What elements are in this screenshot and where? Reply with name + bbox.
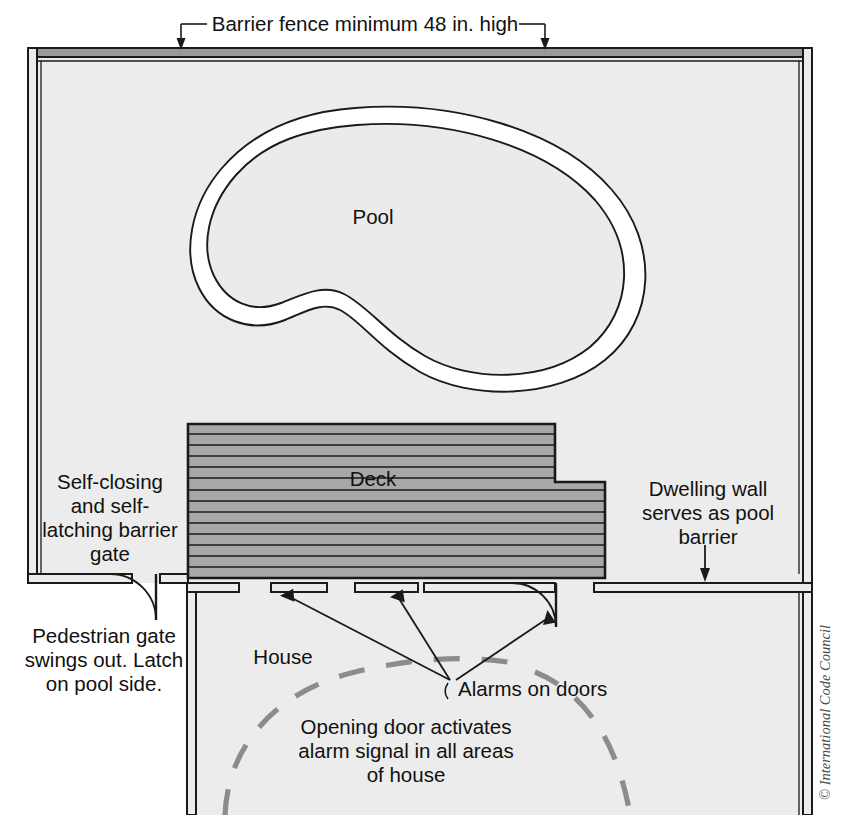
dwelling-note-line-3: barrier <box>678 525 737 548</box>
gate-note-line-4: gate <box>90 542 130 565</box>
fence-bottom-left-segment <box>28 574 132 583</box>
house-right-wall <box>803 583 812 815</box>
dwelling-note-line-2: serves as pool <box>642 501 774 524</box>
pool-barrier-diagram: Pool Deck House Barrier fence minimum 48… <box>0 0 841 815</box>
dwelling-wall-segment-1 <box>187 583 239 592</box>
pool-label: Pool <box>352 205 393 228</box>
alarm-signal-line-3: of house <box>367 763 446 786</box>
alarm-signal-line-1: Opening door activates <box>301 715 512 738</box>
dwelling-wall-segment-3 <box>355 583 418 592</box>
pool-barrier-plan-drawing: Pool Deck House Barrier fence minimum 48… <box>0 0 841 815</box>
pool-deck <box>188 424 610 578</box>
dwelling-wall-segment-5 <box>594 583 812 592</box>
fence-right-run <box>803 48 812 583</box>
alarms-label: Alarms on doors <box>458 677 607 700</box>
pedestrian-note-line-3: on pool side. <box>46 672 162 695</box>
fence-top-run <box>28 48 812 57</box>
gate-note-line-3: latching barrier <box>42 518 178 541</box>
pedestrian-note-line-2: swings out. Latch <box>25 648 183 671</box>
house-label: House <box>253 645 312 668</box>
gate-note-line-1: Self-closing <box>57 470 163 493</box>
alarm-signal-line-2: alarm signal in all areas <box>298 739 513 762</box>
fence-left-run <box>28 48 37 583</box>
fence-bottom-right-segment <box>160 574 188 583</box>
dwelling-note-line-1: Dwelling wall <box>649 477 768 500</box>
deck-label: Deck <box>350 467 397 490</box>
gate-note-line-2: and self- <box>71 494 150 517</box>
pedestrian-note-line-1: Pedestrian gate <box>32 624 176 647</box>
dwelling-wall-segment-2 <box>271 583 327 592</box>
house-left-wall <box>187 583 196 815</box>
fence-note-label: Barrier fence minimum 48 in. high <box>212 12 519 35</box>
copyright-notice: © International Code Council <box>817 625 833 800</box>
